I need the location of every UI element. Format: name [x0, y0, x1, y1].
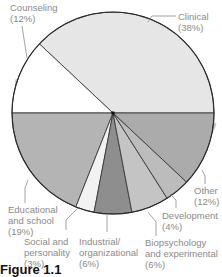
leader-line-educational — [25, 180, 28, 203]
label-name: Clinical — [178, 11, 209, 22]
label-name-2: and school — [8, 215, 58, 226]
label-value: (6%) — [79, 258, 138, 269]
leader-line-bio — [148, 212, 156, 236]
label-value: (4%) — [162, 221, 218, 232]
label-name: Biopsychology — [145, 237, 218, 248]
label-name-2: personality — [24, 247, 70, 258]
leader-line-social — [66, 208, 78, 230]
label-other: Other (12%) — [194, 185, 219, 207]
label-development: Development (4%) — [162, 210, 218, 232]
label-value: (6%) — [145, 259, 218, 270]
label-name: Other — [194, 185, 219, 196]
label-industrial: Industrial/ organizational (6%) — [79, 236, 138, 269]
label-name: Development — [162, 210, 218, 221]
label-name-2: and experimental — [145, 248, 218, 259]
leader-line-other — [202, 170, 205, 184]
pie-center — [111, 111, 115, 115]
label-educational: Educational and school (19%) — [8, 204, 58, 237]
figure-caption: Figure 1.1 — [0, 262, 61, 277]
label-name: Counseling — [10, 2, 58, 13]
label-value: (38%) — [178, 22, 209, 33]
label-name: Educational — [8, 204, 58, 215]
label-name-2: organizational — [79, 247, 138, 258]
label-name: Social and — [24, 236, 70, 247]
label-bio: Biopsychology and experimental (6%) — [145, 237, 218, 270]
label-counseling: Counseling (12%) — [10, 2, 58, 24]
label-value: (12%) — [194, 196, 219, 207]
label-value: (12%) — [10, 13, 58, 24]
label-name: Industrial/ — [79, 236, 138, 247]
leader-line-counseling — [22, 26, 27, 58]
label-clinical: Clinical (38%) — [178, 11, 209, 33]
